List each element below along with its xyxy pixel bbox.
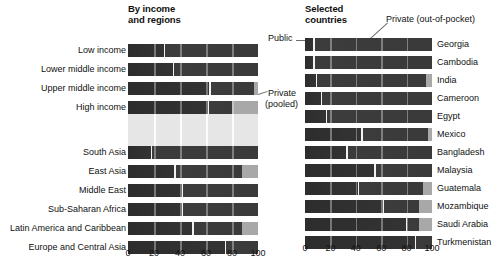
- segment-divider: [361, 128, 363, 141]
- bar-segment-private-out-of-pocket[interactable]: [327, 110, 432, 123]
- gridline: [356, 56, 358, 69]
- bar-row[interactable]: [128, 101, 258, 114]
- bar-segment-public[interactable]: [128, 44, 164, 57]
- bar-row[interactable]: [128, 146, 258, 159]
- category-label: Guatemala: [437, 182, 495, 195]
- gridline: [232, 222, 234, 235]
- gridline: [381, 182, 383, 195]
- bar-row[interactable]: [305, 92, 432, 105]
- bar-segment-public[interactable]: [128, 63, 174, 76]
- category-label: Turkmenistan: [437, 236, 495, 249]
- gridline: [381, 164, 383, 177]
- axis-tick-label: 20: [149, 247, 159, 259]
- bar-row[interactable]: [305, 74, 432, 87]
- gridline: [407, 146, 409, 159]
- bar-segment-private-out-of-pocket[interactable]: [316, 74, 425, 87]
- bar-segment-private-pooled[interactable]: [423, 182, 432, 195]
- bar-row[interactable]: [128, 222, 258, 235]
- bar-segment-private-pooled[interactable]: [428, 128, 432, 141]
- gridline: [206, 44, 208, 57]
- bar-row[interactable]: [305, 164, 432, 177]
- gridline: [180, 82, 182, 95]
- bar-segment-private-pooled[interactable]: [419, 218, 432, 231]
- gridline: [407, 110, 409, 123]
- gridline: [356, 110, 358, 123]
- bar-segment-private-out-of-pocket[interactable]: [209, 101, 232, 114]
- gridline: [356, 182, 358, 195]
- gridline: [407, 74, 409, 87]
- gridline: [180, 101, 182, 114]
- bar-row[interactable]: [305, 146, 432, 159]
- gridline: [154, 165, 156, 178]
- gridline: [407, 164, 409, 177]
- bar-row[interactable]: [128, 184, 258, 197]
- bar-segment-private-out-of-pocket[interactable]: [183, 184, 258, 197]
- bar-segment-private-out-of-pocket[interactable]: [193, 222, 242, 235]
- bar-segment-private-pooled[interactable]: [419, 200, 432, 213]
- gridline: [407, 38, 409, 51]
- gridline: [154, 63, 156, 76]
- segment-divider: [316, 74, 318, 87]
- bar-segment-public[interactable]: [305, 200, 384, 213]
- gridline: [407, 56, 409, 69]
- bar-segment-public[interactable]: [305, 128, 362, 141]
- bar-segment-private-pooled[interactable]: [242, 222, 258, 235]
- bar-segment-private-pooled[interactable]: [254, 82, 258, 95]
- gridline: [232, 101, 234, 114]
- bar-segment-private-pooled[interactable]: [232, 101, 258, 114]
- bar-row[interactable]: [128, 44, 258, 57]
- bar-segment-private-out-of-pocket[interactable]: [362, 128, 428, 141]
- bar-segment-private-out-of-pocket[interactable]: [183, 203, 258, 216]
- bar-segment-public[interactable]: [128, 146, 151, 159]
- category-label: Malaysia: [437, 164, 495, 177]
- gridline: [330, 200, 332, 213]
- bar-row[interactable]: [305, 110, 432, 123]
- bar-row[interactable]: [128, 165, 258, 178]
- left-panel-title-line2: and regions: [128, 14, 181, 25]
- category-label: Europe and Central Asia: [2, 241, 126, 254]
- gridline: [381, 110, 383, 123]
- category-label: Sub-Saharan Africa: [2, 203, 126, 216]
- gridline: [407, 128, 409, 141]
- bar-row[interactable]: [128, 63, 258, 76]
- bar-segment-public[interactable]: [128, 165, 175, 178]
- bar-segment-public[interactable]: [128, 82, 210, 95]
- bar-segment-private-out-of-pocket[interactable]: [407, 218, 420, 231]
- bar-row[interactable]: [305, 128, 432, 141]
- gridline: [154, 101, 156, 114]
- category-label: Mozambique: [437, 200, 495, 213]
- category-label: Cameroon: [437, 92, 495, 105]
- bar-row[interactable]: [305, 218, 432, 231]
- right-panel-title-line2: countries: [305, 14, 347, 25]
- bar-segment-private-out-of-pocket[interactable]: [164, 44, 258, 57]
- gridline: [206, 101, 208, 114]
- bar-row[interactable]: [305, 56, 432, 69]
- bar-row[interactable]: [305, 38, 432, 51]
- gridline: [180, 203, 182, 216]
- bar-segment-public[interactable]: [305, 146, 347, 159]
- bar-row[interactable]: [305, 182, 432, 195]
- bar-segment-private-out-of-pocket[interactable]: [375, 164, 432, 177]
- gridline: [206, 82, 208, 95]
- bar-row[interactable]: [128, 82, 258, 95]
- bar-segment-private-out-of-pocket[interactable]: [347, 146, 432, 159]
- left-panel-title-line1: By income: [128, 3, 181, 14]
- bar-segment-private-pooled[interactable]: [242, 165, 258, 178]
- gridline: [330, 128, 332, 141]
- annotation-public: Public: [268, 33, 293, 44]
- bar-segment-private-out-of-pocket[interactable]: [322, 92, 432, 105]
- bar-segment-public[interactable]: [305, 110, 327, 123]
- bar-row[interactable]: [128, 203, 258, 216]
- segment-divider: [182, 184, 184, 197]
- bar-segment-public[interactable]: [305, 92, 322, 105]
- bar-row[interactable]: [305, 200, 432, 213]
- bar-segment-private-pooled[interactable]: [426, 74, 432, 87]
- bar-segment-private-out-of-pocket[interactable]: [384, 200, 420, 213]
- bar-segment-private-out-of-pocket[interactable]: [174, 63, 259, 76]
- gridline: [356, 38, 358, 51]
- bar-segment-public[interactable]: [128, 222, 193, 235]
- bar-segment-public[interactable]: [305, 164, 375, 177]
- bar-segment-private-out-of-pocket[interactable]: [358, 182, 423, 195]
- bar-segment-private-out-of-pocket[interactable]: [151, 146, 258, 159]
- bar-segment-public[interactable]: [128, 101, 209, 114]
